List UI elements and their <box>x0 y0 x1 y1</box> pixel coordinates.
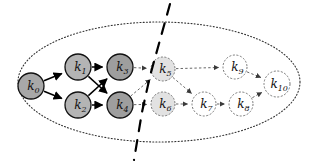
node-k8[interactable]: k8 <box>229 92 253 116</box>
node-k4[interactable]: k4 <box>107 92 133 118</box>
node-k0[interactable]: k0 <box>18 73 44 99</box>
node-k5[interactable]: k5 <box>151 57 175 81</box>
edge-k5-k9 <box>176 67 219 68</box>
node-k6[interactable]: k6 <box>151 92 175 116</box>
node-k1[interactable]: k1 <box>65 54 91 80</box>
edge-k0-k1 <box>44 74 62 81</box>
node-k9[interactable]: k9 <box>223 55 247 79</box>
edge-k3-k5 <box>134 68 147 69</box>
node-subscript-k3: 3 <box>123 67 128 76</box>
node-subscript-k9: 9 <box>238 67 243 76</box>
diagram-canvas: k0k1k2k3k4k5k6k7k8k9k10 <box>0 0 310 164</box>
node-subscript-k0: 0 <box>34 86 39 95</box>
graph-svg: k0k1k2k3k4k5k6k7k8k9k10 <box>0 0 310 164</box>
boundary-layer <box>18 22 300 142</box>
edge-k0-k2 <box>44 91 62 98</box>
edge-k8-k10 <box>252 92 261 97</box>
node-subscript-k4: 4 <box>122 105 128 114</box>
edge-k1-k4 <box>88 76 107 93</box>
node-subscript-k6: 6 <box>166 104 171 113</box>
enclosing-ellipse <box>18 22 300 142</box>
node-subscript-k5: 5 <box>166 69 171 78</box>
partition-layer <box>134 4 170 160</box>
node-k7[interactable]: k7 <box>192 92 216 116</box>
node-subscript-k2: 2 <box>80 105 86 114</box>
edge-k9-k10 <box>247 72 261 78</box>
edge-k2-k3 <box>88 79 107 96</box>
node-subscript-k8: 8 <box>244 104 249 113</box>
node-k2[interactable]: k2 <box>65 92 91 118</box>
edge-k5-k7 <box>173 77 192 93</box>
node-k3[interactable]: k3 <box>107 54 133 80</box>
node-subscript-k1: 1 <box>81 67 86 76</box>
node-subscript-k10: 10 <box>278 84 288 93</box>
node-k10[interactable]: k10 <box>264 71 290 97</box>
partition-curve <box>134 4 170 160</box>
